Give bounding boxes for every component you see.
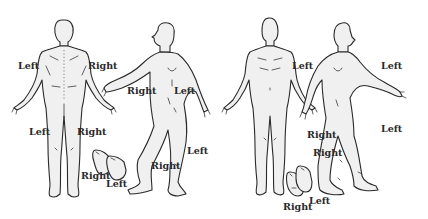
label-side2-leg-right: Right [313, 148, 342, 158]
body-diagram: Left Right Left Right Right Left Left Ri… [0, 0, 428, 219]
side-view-left-figure [300, 23, 406, 195]
label-back-upper-left: Left [18, 61, 39, 71]
label-feet1-left: Left [106, 179, 127, 189]
label-front-lower-right: Right [307, 130, 336, 140]
label-side2-leg-left: Left [381, 124, 402, 134]
feet-front-view-figure [286, 166, 312, 196]
figures-illustration [0, 0, 428, 219]
label-back-lower-left: Left [29, 127, 50, 137]
label-feet2-left: Left [309, 196, 330, 206]
label-front-upper-left: Left [292, 61, 313, 71]
label-back-upper-right: Right [88, 61, 117, 71]
label-side-leg-left: Left [187, 146, 208, 156]
label-side-torso-left: Left [174, 86, 195, 96]
label-back-lower-right: Right [77, 127, 106, 137]
label-side-arm-right: Right [127, 86, 156, 96]
label-side2-arm-left: Left [381, 61, 402, 71]
label-side-leg-right: Right [151, 161, 180, 171]
